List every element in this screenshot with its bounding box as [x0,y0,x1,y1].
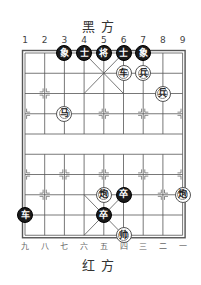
piece-glyph: 象 [139,49,148,58]
red-chariot[interactable]: 车 [116,65,132,81]
black-soldier[interactable]: 卒 [96,207,112,223]
piece-glyph: 兵 [139,69,148,78]
black-advisor[interactable]: 士 [76,45,92,61]
piece-glyph: 将 [99,49,108,58]
black-elephant[interactable]: 象 [135,45,151,61]
piece-glyph: 卒 [119,190,128,199]
red-soldier[interactable]: 兵 [135,65,151,81]
black-elephant[interactable]: 象 [56,45,72,61]
red-soldier[interactable]: 兵 [155,86,171,102]
red-general[interactable]: 帅 [116,227,132,243]
piece-glyph: 马 [60,109,69,118]
red-cannon[interactable]: 炮 [175,187,191,203]
black-chariot[interactable]: 车 [17,207,33,223]
piece-glyph: 士 [119,49,128,58]
xiangqi-board [0,0,201,285]
piece-glyph: 炮 [99,190,108,199]
piece-glyph: 车 [21,211,30,220]
piece-glyph: 卒 [99,211,108,220]
black-soldier[interactable]: 卒 [116,187,132,203]
piece-glyph: 象 [60,49,69,58]
piece-glyph: 车 [119,69,128,78]
red-horse[interactable]: 马 [56,106,72,122]
red-cannon[interactable]: 炮 [96,187,112,203]
piece-glyph: 兵 [158,89,167,98]
black-advisor[interactable]: 士 [116,45,132,61]
black-general[interactable]: 将 [96,45,112,61]
piece-glyph: 帅 [119,231,128,240]
piece-glyph: 士 [80,49,89,58]
piece-glyph: 炮 [178,190,187,199]
